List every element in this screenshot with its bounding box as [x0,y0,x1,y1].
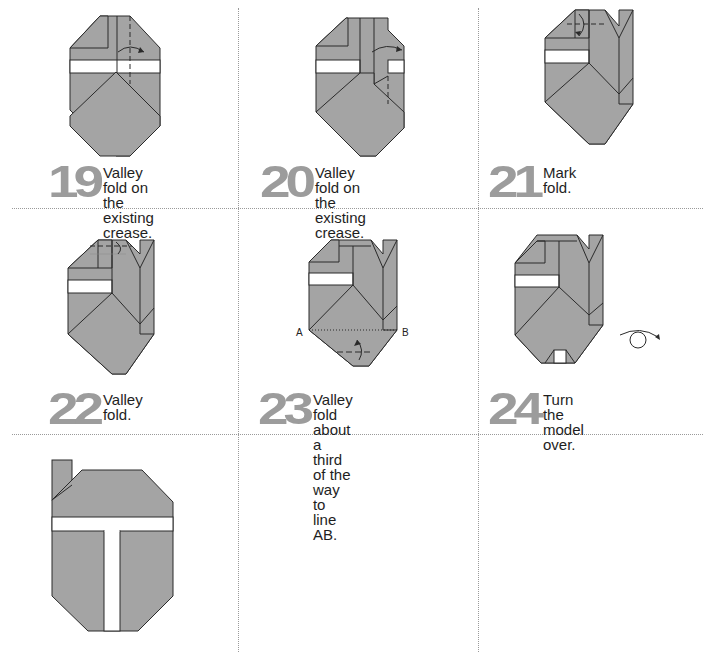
step-21-caption: 21 Mark fold. [488,165,576,199]
step-text-line1: Valley fold on the [103,165,154,210]
step-23-diagram [309,240,399,376]
point-label-a: A [296,327,303,338]
step-19-caption: 19 Valley fold on the existing crease. [48,165,154,240]
step-number: 21 [488,165,539,199]
finished-model-diagram [52,460,176,632]
step-number: 24 [488,392,539,426]
step-number: 22 [48,392,99,426]
step-text-line1: Valley fold. [103,392,143,422]
step-text-line1: Mark fold. [543,165,576,195]
step-number: 23 [258,392,309,426]
grid-divider-vertical-2 [478,8,479,652]
point-label-b: B [402,327,409,338]
step-24-caption: 24 Turn the model over. [488,392,584,452]
step-20-diagram [316,18,408,156]
step-22-caption: 22 Valley fold. [48,392,143,426]
step-24-diagram [515,235,605,363]
step-23-caption: 23 Valley fold about a third of the way … [258,392,353,542]
step-21-diagram [545,10,635,146]
step-text-line1: Valley fold about a third [313,392,353,467]
grid-divider-horizontal-2 [12,434,703,435]
step-text-line1: Turn the model over. [543,392,584,452]
grid-divider-vertical-1 [238,8,239,652]
step-text-line2: existing crease. [315,210,366,240]
step-22-diagram [68,240,156,376]
step-number: 20 [260,165,311,199]
step-number: 19 [48,165,99,199]
step-19-diagram [70,16,160,156]
step-20-caption: 20 Valley fold on the existing crease. [260,165,366,240]
step-text-line2: of the way to line AB. [313,467,353,542]
turn-over-icon [618,327,666,351]
step-text-line1: Valley fold on the [315,165,366,210]
step-text-line2: existing crease. [103,210,154,240]
